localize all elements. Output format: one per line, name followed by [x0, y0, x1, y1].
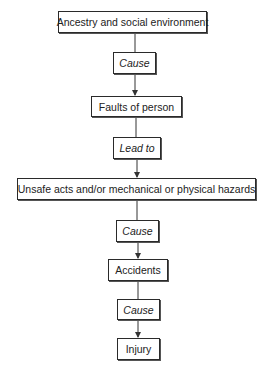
node-label: Ancestry and social environment — [57, 16, 209, 28]
node-unsafe-acts: Unsafe acts and/or mechanical or physica… — [17, 178, 256, 200]
node-injury: Injury — [117, 338, 160, 360]
node-ancestry: Ancestry and social environment — [58, 11, 207, 33]
node-accidents: Accidents — [108, 259, 168, 281]
node-label: Accidents — [115, 264, 161, 276]
node-label: Unsafe acts and/or mechanical or physica… — [18, 183, 256, 195]
node-label: Injury — [126, 343, 152, 355]
node-cause-2: Cause — [116, 220, 159, 242]
node-faults-of-person: Faults of person — [91, 96, 182, 117]
node-cause-3: Cause — [117, 299, 160, 320]
node-label: Cause — [123, 304, 153, 316]
node-label: Faults of person — [99, 101, 174, 113]
node-cause-1: Cause — [113, 52, 156, 74]
node-label: Cause — [119, 57, 149, 69]
node-label: Cause — [122, 225, 152, 237]
node-lead-to: Lead to — [113, 137, 161, 159]
node-label: Lead to — [119, 142, 154, 154]
